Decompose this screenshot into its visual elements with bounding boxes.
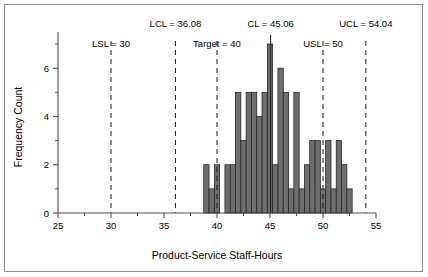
histogram-bar: [283, 92, 288, 213]
x-tick-label: 45: [265, 220, 276, 231]
histogram-bar: [230, 165, 235, 213]
x-tick-label: 25: [53, 220, 64, 231]
histogram-bar: [273, 165, 278, 213]
y-tick-label: 4: [44, 111, 49, 122]
histogram-bar: [225, 165, 230, 213]
y-tick-label: 6: [44, 63, 49, 74]
x-tick-label: 40: [212, 220, 223, 231]
x-tick-label: 30: [106, 220, 117, 231]
figure-frame: 253035404550550246 LSL = 30LCL = 36.08Ta…: [4, 4, 423, 272]
histogram-bars: [204, 44, 352, 213]
annotation-label-lcl: LCL = 36.08: [150, 18, 202, 29]
annotation-labels: LSL = 30LCL = 36.08Target = 40CL = 45.06…: [92, 18, 392, 49]
histogram-bar: [236, 92, 241, 213]
histogram-bar: [294, 92, 299, 213]
histogram-plot: 253035404550550246 LSL = 30LCL = 36.08Ta…: [5, 5, 422, 271]
histogram-bar: [241, 141, 246, 213]
x-tick-label: 55: [371, 220, 382, 231]
x-axis-title: Product-Service Staff-Hours: [152, 249, 283, 261]
annotation-label-ucl: UCL = 54.04: [339, 18, 392, 29]
histogram-bar: [257, 116, 262, 213]
histogram-bar: [326, 141, 331, 213]
histogram-bar: [267, 44, 272, 213]
histogram-figure: 253035404550550246 LSL = 30LCL = 36.08Ta…: [0, 0, 428, 277]
histogram-bar: [315, 141, 320, 213]
histogram-bar: [289, 189, 294, 213]
histogram-bar: [262, 92, 267, 213]
histogram-bar: [246, 92, 251, 213]
histogram-bar: [209, 189, 214, 213]
histogram-bar: [251, 92, 256, 213]
histogram-bar: [310, 141, 315, 213]
annotation-label-usl: USL = 50: [303, 38, 343, 49]
histogram-bar: [342, 165, 347, 213]
y-axis-title: Frequency Count: [12, 87, 24, 168]
annotation-label-lsl: LSL = 30: [92, 38, 130, 49]
y-tick-label: 2: [44, 159, 49, 170]
histogram-bar: [347, 189, 352, 213]
histogram-bar: [331, 189, 336, 213]
histogram-bar: [320, 189, 325, 213]
histogram-bar: [299, 189, 304, 213]
annotation-label-target: Target = 40: [193, 38, 241, 49]
histogram-bar: [204, 165, 209, 213]
x-tick-label: 50: [318, 220, 329, 231]
histogram-bar: [278, 68, 283, 213]
histogram-bar: [336, 141, 341, 213]
annotation-label-cl: CL = 45.06: [247, 18, 293, 29]
x-tick-label: 35: [159, 220, 170, 231]
histogram-bar: [304, 165, 309, 213]
y-tick-label: 0: [44, 208, 49, 219]
